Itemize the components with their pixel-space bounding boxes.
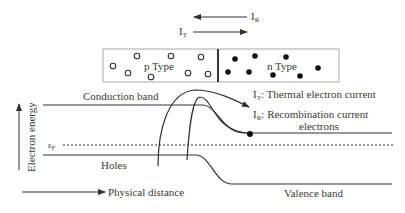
electron-dot — [246, 69, 252, 75]
electron-dot — [315, 65, 321, 71]
p-type-label: p Type — [144, 60, 174, 72]
electron-dot — [252, 53, 258, 59]
n-type-label: n Type — [267, 60, 297, 72]
hole-circle — [185, 70, 191, 76]
electrons-legend-label: electrons — [299, 120, 339, 132]
hole-circle — [168, 53, 174, 59]
hole-circle — [205, 71, 211, 77]
ir-top-label: IR — [251, 10, 260, 24]
hole-circle — [110, 63, 116, 69]
holes-label: Holes — [101, 159, 127, 171]
hole-circle — [125, 70, 131, 76]
energy-axis-label: Electron energy — [25, 102, 37, 172]
valence-band-label: Valence band — [284, 187, 343, 199]
pn-junction-diagram: IR IT p Type n Type Conduction band εF H… — [0, 0, 405, 213]
hole-circle — [198, 54, 204, 60]
fermi-level-label: εF — [48, 140, 56, 151]
electron-dot — [297, 73, 303, 79]
electron-dot — [232, 56, 238, 62]
electron-dot — [270, 72, 276, 78]
electron-dot — [225, 69, 231, 75]
distance-axis-label: Physical distance — [108, 186, 184, 198]
electron-dot — [283, 54, 289, 60]
conduction-band-label: Conduction band — [83, 90, 159, 102]
recombination-electron-path — [187, 97, 250, 160]
valence-band-line — [43, 155, 392, 184]
thermal-current-legend: IT: Thermal electron current — [253, 88, 376, 102]
recombining-electron-dot — [247, 131, 253, 137]
hole-circle — [148, 74, 154, 80]
it-top-label: IT — [179, 25, 188, 39]
hole-circle — [134, 53, 140, 59]
